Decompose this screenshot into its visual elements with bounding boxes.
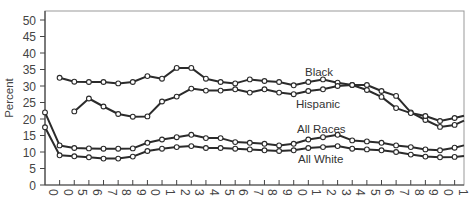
data-point-all-races (72, 146, 77, 151)
data-point-hispanic (145, 114, 150, 119)
data-point-hispanic (365, 88, 370, 93)
data-point-hispanic (218, 88, 223, 93)
data-point-all-races (218, 136, 223, 141)
x-tick-label: 1 (456, 189, 470, 196)
data-point-all-races (277, 143, 282, 148)
y-tick-label: 30 (23, 80, 37, 94)
data-point-all-white (204, 146, 209, 151)
data-point-all-white (438, 155, 443, 160)
data-point-all-white (262, 148, 267, 153)
data-point-black (379, 89, 384, 94)
series-markers (43, 66, 457, 162)
data-point-black (438, 125, 443, 130)
data-point-black (233, 81, 238, 86)
data-point-all-white (277, 149, 282, 154)
data-point-hispanic (72, 109, 77, 114)
data-point-all-white (350, 146, 355, 151)
x-ticks: 00567890123456789012345678901 (46, 180, 470, 196)
x-tick-label: 2 (324, 189, 338, 196)
y-ticks: 05101520253035404550 (23, 14, 45, 193)
data-point-black (145, 74, 150, 79)
x-tick-label: 4 (207, 189, 221, 196)
y-tick-label: 20 (23, 113, 37, 127)
data-point-all-white (365, 147, 370, 152)
x-tick-label: 1 (309, 189, 323, 196)
data-point-black (262, 79, 267, 84)
data-point-hispanic (438, 119, 443, 124)
data-point-hispanic (394, 106, 399, 111)
data-point-all-races (321, 135, 326, 140)
data-point-all-races (365, 139, 370, 144)
label-all-races: All Races (297, 123, 346, 135)
data-point-all-white (306, 146, 311, 151)
data-point-black (306, 80, 311, 85)
data-point-all-races (160, 137, 165, 142)
data-point-all-white (408, 152, 413, 157)
data-point-all-white (57, 153, 62, 158)
data-point-all-races (306, 137, 311, 142)
x-tick-label: 5 (368, 189, 382, 196)
data-point-all-races (379, 140, 384, 145)
data-point-all-races (394, 143, 399, 148)
data-point-black (189, 66, 194, 71)
data-point-all-races (145, 140, 150, 145)
data-point-hispanic (277, 90, 282, 95)
x-tick-label: 8 (412, 189, 426, 196)
x-tick-label: 5 (222, 189, 236, 196)
data-point-all-races (233, 140, 238, 145)
x-tick-label: 8 (119, 189, 133, 196)
data-point-all-white (160, 146, 165, 151)
data-point-all-white (116, 156, 121, 161)
data-point-all-white (101, 156, 106, 161)
label-black: Black (305, 66, 333, 78)
y-tick-label: 10 (23, 146, 37, 160)
data-point-black (365, 83, 370, 88)
data-point-black (247, 77, 252, 82)
x-tick-label: 3 (192, 189, 206, 196)
x-tick-label: 9 (280, 189, 294, 196)
data-point-hispanic (291, 92, 296, 97)
data-point-black (72, 79, 77, 84)
data-point-hispanic (321, 87, 326, 92)
data-point-hispanic (423, 114, 428, 119)
series-line-all-races (45, 112, 464, 150)
data-point-all-races (262, 141, 267, 146)
data-point-black (160, 76, 165, 81)
x-tick-label: 5 (75, 189, 89, 196)
data-point-all-races (291, 141, 296, 146)
y-tick-label: 40 (23, 47, 37, 61)
data-point-black (452, 123, 457, 128)
data-point-all-white (43, 125, 48, 130)
x-tick-label: 0 (61, 189, 75, 196)
label-hispanic: Hispanic (296, 98, 340, 110)
data-point-all-races (247, 140, 252, 145)
x-tick-label: 1 (163, 189, 177, 196)
x-tick-label: 0 (148, 189, 162, 196)
series-line-black (60, 68, 464, 127)
x-tick-label: 9 (134, 189, 148, 196)
data-point-all-races (57, 143, 62, 148)
data-point-all-white (321, 145, 326, 150)
data-point-hispanic (130, 114, 135, 119)
data-point-all-races (116, 146, 121, 151)
data-point-hispanic (408, 111, 413, 116)
data-point-all-white (379, 148, 384, 153)
y-tick-label: 25 (23, 96, 37, 110)
x-tick-label: 9 (426, 189, 440, 196)
y-axis-title: Percent (3, 77, 15, 117)
data-point-black (204, 76, 209, 81)
x-tick-label: 2 (178, 189, 192, 196)
data-point-black (57, 75, 62, 80)
data-point-all-white (189, 144, 194, 149)
data-point-all-white (247, 147, 252, 152)
data-point-black (218, 80, 223, 85)
data-point-hispanic (87, 96, 92, 101)
data-point-all-races (87, 146, 92, 151)
data-point-black (394, 94, 399, 99)
data-point-all-races (130, 146, 135, 151)
data-point-all-white (233, 146, 238, 151)
data-point-hispanic (247, 90, 252, 95)
data-point-all-white (72, 154, 77, 159)
data-point-all-white (452, 155, 457, 160)
data-point-black (277, 80, 282, 85)
